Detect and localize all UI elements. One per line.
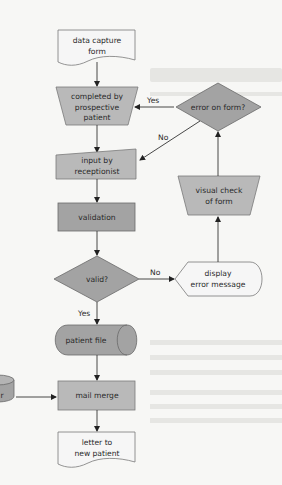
node-label: input by (81, 156, 113, 165)
node-partial-disk-store: r (0, 375, 14, 402)
node-visual-check-of-form: visual check of form (178, 176, 260, 215)
node-label: data capture (73, 36, 122, 45)
node-input-by-receptionist: input by receptionist (56, 149, 136, 179)
node-label: completed by (71, 92, 124, 101)
node-data-capture-form: data capture form (58, 30, 135, 65)
node-mail-merge: mail merge (58, 381, 135, 410)
node-error-on-form: error on form? (176, 83, 261, 131)
node-patient-file: patient file (55, 325, 137, 355)
node-label: visual check (196, 186, 243, 195)
edge-label-no: No (158, 133, 169, 142)
edge-label-yes: Yes (146, 96, 159, 105)
node-label: of form (205, 197, 232, 206)
node-label: new patient (74, 449, 119, 458)
node-validation: validation (58, 203, 135, 231)
node-label: patient (83, 113, 110, 122)
flowchart: data capture form completed by prospecti… (0, 0, 282, 485)
node-letter-to-new-patient: letter to new patient (58, 432, 135, 467)
node-label: valid? (86, 275, 108, 284)
node-label: prospective (75, 103, 120, 112)
edge-label-no: No (150, 268, 161, 277)
node-label: error on form? (191, 103, 245, 112)
edge-arrow-no (140, 121, 200, 160)
node-label: letter to (82, 438, 113, 447)
node-label: error message (191, 280, 246, 289)
node-label: form (88, 47, 106, 56)
node-valid: valid? (54, 256, 139, 302)
node-label: mail merge (75, 391, 119, 400)
node-display-error-message: display error message (175, 262, 262, 296)
edge-label-yes: Yes (77, 309, 90, 318)
node-label: validation (78, 213, 116, 222)
node-label: display (205, 269, 232, 278)
node-label: patient file (65, 336, 106, 345)
node-completed-by-prospective-patient: completed by prospective patient (56, 87, 138, 125)
node-label: receptionist (75, 167, 120, 176)
